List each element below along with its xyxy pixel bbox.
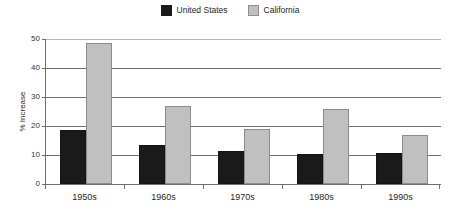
bar-group-1980s xyxy=(283,39,362,184)
y-tick-label-40: 40 xyxy=(31,64,40,72)
y-tick-label-20: 20 xyxy=(31,122,40,130)
y-tick-label-0: 0 xyxy=(36,180,40,188)
x-axis-label-1970s: 1970s xyxy=(203,193,282,202)
x-axis-label-1980s: 1980s xyxy=(282,193,361,202)
x-axis-label-1960s: 1960s xyxy=(124,193,203,202)
bar-group-1990s xyxy=(362,39,441,184)
x-tick-1 xyxy=(124,185,125,189)
bar-1950s-california[interactable] xyxy=(86,43,112,184)
x-axis-cell-1960s: 1960s xyxy=(124,185,203,215)
legend-label-united-states: United States xyxy=(177,6,228,15)
legend-item-california: California xyxy=(248,5,300,16)
bar-chart: United States California % Increase 0102… xyxy=(0,0,460,221)
y-tick-label-30: 30 xyxy=(31,93,40,101)
legend-swatch-united-states-icon xyxy=(161,5,172,16)
y-tick-label-10: 10 xyxy=(31,151,40,159)
x-axis-cell-1990s: 1990s xyxy=(361,185,440,215)
x-tick-2 xyxy=(203,185,204,189)
bar-1960s-united-states[interactable] xyxy=(139,145,165,184)
x-tick-end xyxy=(439,185,440,189)
x-axis-cell-1970s: 1970s xyxy=(203,185,282,215)
x-axis-label-1990s: 1990s xyxy=(361,193,440,202)
x-axis-label-1950s: 1950s xyxy=(45,193,124,202)
bar-group-1970s xyxy=(204,39,283,184)
chart-legend: United States California xyxy=(0,5,460,16)
legend-swatch-california-icon xyxy=(248,5,259,16)
legend-item-united-states: United States xyxy=(161,5,228,16)
y-axis-title: % Increase xyxy=(16,39,28,184)
bar-1980s-united-states[interactable] xyxy=(297,154,323,184)
bar-group-1960s xyxy=(125,39,204,184)
plot-area: 01020304050 xyxy=(45,39,441,185)
bar-1980s-california[interactable] xyxy=(323,109,349,184)
x-tick-0 xyxy=(45,185,46,189)
x-axis-cell-1980s: 1980s xyxy=(282,185,361,215)
x-tick-3 xyxy=(282,185,283,189)
bar-series-container xyxy=(46,39,441,184)
bar-group-1950s xyxy=(46,39,125,184)
legend-label-california: California xyxy=(264,6,300,15)
y-tick-label-50: 50 xyxy=(31,35,40,43)
bar-1970s-united-states[interactable] xyxy=(218,151,244,184)
bar-1960s-california[interactable] xyxy=(165,106,191,184)
bar-1970s-california[interactable] xyxy=(244,129,270,184)
x-axis-cell-1950s: 1950s xyxy=(45,185,124,215)
x-axis: 1950s1960s1970s1980s1990s xyxy=(45,185,440,215)
bar-1990s-united-states[interactable] xyxy=(376,153,402,184)
bar-1990s-california[interactable] xyxy=(402,135,428,184)
bar-1950s-united-states[interactable] xyxy=(60,130,86,184)
x-tick-4 xyxy=(361,185,362,189)
